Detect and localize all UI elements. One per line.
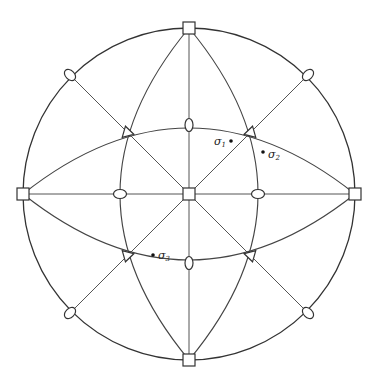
ellipse-symbol-inner-right	[252, 190, 265, 199]
sigma3-label: σ3	[158, 249, 171, 263]
sigma2-label: σ2	[268, 148, 281, 162]
ellipse-symbol-inner-bottom	[185, 257, 193, 270]
sigma3-dot	[151, 253, 155, 257]
stereographic-diagram: σ1 σ2 σ3	[0, 0, 377, 388]
square-symbol-left	[17, 188, 29, 200]
ellipse-symbol-inner-top	[185, 119, 193, 132]
sigma2-dot	[261, 150, 265, 154]
square-symbol-top	[183, 22, 195, 34]
square-symbol-center	[183, 188, 195, 200]
diagram-canvas: σ1 σ2 σ3	[0, 0, 377, 388]
square-symbol-right	[349, 188, 361, 200]
sigma1-label: σ1	[214, 135, 226, 149]
square-symbol-bottom	[183, 354, 195, 366]
sigma1-dot	[229, 139, 233, 143]
ellipse-symbol-inner-left	[114, 190, 127, 199]
